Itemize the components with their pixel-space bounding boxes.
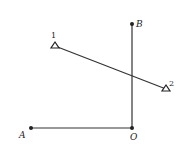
diagram-canvas: A O B 1 2 [0,0,185,149]
point-o-dot [130,126,134,130]
label-a: A [18,130,26,140]
label-b: B [135,19,143,29]
triangle-marker-1-icon [51,42,59,48]
label-marker-2: 2 [169,79,174,88]
point-a-dot [29,126,33,130]
segment-1-2 [55,46,166,89]
label-o: O [130,132,138,142]
label-marker-1: 1 [51,31,56,40]
point-b-dot [130,22,134,26]
